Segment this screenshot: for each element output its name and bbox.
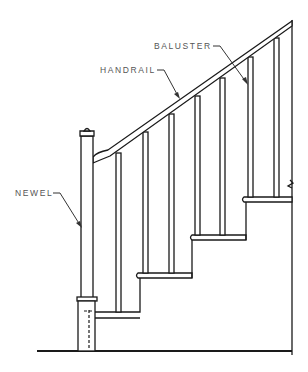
label-handrail: HANDRAIL bbox=[100, 65, 156, 75]
staircase-diagram bbox=[0, 0, 308, 372]
label-baluster: BALUSTER bbox=[154, 41, 212, 51]
balusters bbox=[116, 38, 279, 312]
stair-steps bbox=[93, 180, 293, 318]
label-newel: NEWEL bbox=[15, 188, 53, 198]
